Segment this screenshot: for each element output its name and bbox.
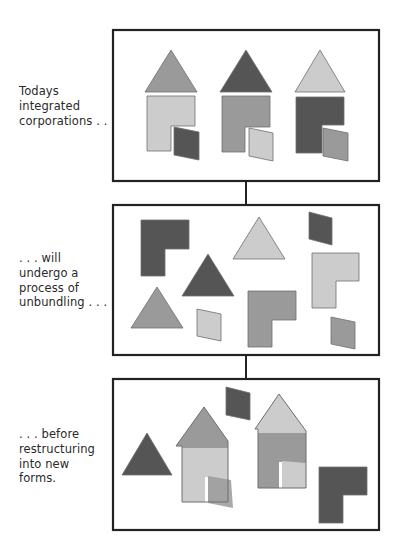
gap-strip xyxy=(205,477,208,503)
parallelogram-door-icon xyxy=(282,461,306,488)
parallelogram-door-icon xyxy=(331,317,355,349)
parallelogram-door-icon xyxy=(249,128,273,161)
parallelogram-door-icon xyxy=(309,212,332,245)
parallelogram-door-icon xyxy=(208,476,233,508)
parallelogram-door-icon xyxy=(197,309,221,341)
parallelogram-door-icon xyxy=(174,127,199,160)
unbundling-diagram xyxy=(0,0,394,544)
parallelogram-door-icon xyxy=(323,128,348,161)
gap-strip xyxy=(279,462,282,488)
parallelogram-door-icon xyxy=(226,387,250,420)
